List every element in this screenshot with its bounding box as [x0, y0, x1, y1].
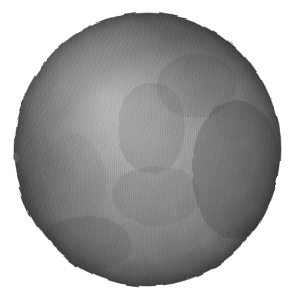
left-limb-notch [13, 152, 19, 161]
illustration-plate: Spherical object rendered in monochrome … [0, 0, 299, 298]
sphere-illustration: Spherical object rendered in monochrome … [0, 0, 299, 298]
